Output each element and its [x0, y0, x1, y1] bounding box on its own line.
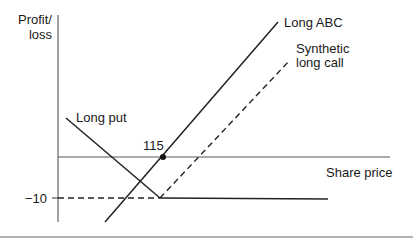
- payoff-chart: [0, 0, 413, 240]
- long-abc-label: Long ABC: [284, 15, 343, 30]
- synthetic-label-line2: long call: [296, 55, 344, 70]
- synthetic-long-call-line: [160, 60, 290, 198]
- long-abc-line: [105, 22, 278, 222]
- long-put-label: Long put: [76, 110, 127, 125]
- strike-dot: [160, 154, 166, 160]
- y-axis-label-line1: Profit/: [0, 12, 52, 27]
- long-put-line: [66, 118, 160, 198]
- long-put-flat: [160, 198, 328, 199]
- x-axis-label: Share price: [326, 165, 392, 180]
- minus-ten-label: −10: [25, 191, 47, 206]
- strike-label: 115: [143, 138, 164, 153]
- y-axis-label-line2: loss: [0, 27, 52, 42]
- synthetic-label-line1: Synthetic: [296, 41, 349, 56]
